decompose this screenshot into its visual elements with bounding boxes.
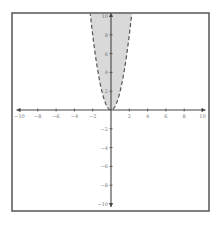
x-tick-label: 10 <box>199 113 205 119</box>
x-tick-label: 4 <box>146 113 149 119</box>
y-tick-label: −4 <box>101 145 108 151</box>
x-tick-label: −4 <box>71 113 78 119</box>
y-tick-label: −6 <box>101 163 108 169</box>
x-tick-label: −6 <box>52 113 59 119</box>
x-tick-label: −2 <box>89 113 96 119</box>
y-tick-label: −2 <box>101 126 108 132</box>
y-tick-label: 2 <box>105 88 108 94</box>
x-tick-label: 6 <box>164 113 167 119</box>
x-tick-label: 2 <box>128 113 131 119</box>
inequality-graph: −10−8−6−4−2246810 108642−2−4−6−8−10 <box>0 0 220 227</box>
y-tick-label: −10 <box>97 201 108 207</box>
x-tick-label: 8 <box>183 113 186 119</box>
y-tick-label: 6 <box>105 51 108 57</box>
y-tick-label: −8 <box>101 182 108 188</box>
y-tick-label: 10 <box>102 13 108 19</box>
y-tick-label: 8 <box>105 32 108 38</box>
x-tick-label: −8 <box>34 113 41 119</box>
x-tick-label: −10 <box>14 113 25 119</box>
y-tick-label: 4 <box>105 69 108 75</box>
